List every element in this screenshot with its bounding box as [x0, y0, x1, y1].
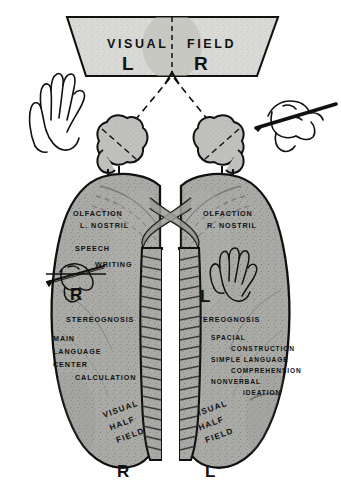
right-function-0: SPACIAL [211, 334, 246, 341]
visual-field-panel [67, 12, 278, 80]
left-vhf-letter: R [117, 462, 129, 481]
left-hand-letter: R [70, 285, 82, 304]
right-olfaction-line1: OLFACTION [203, 209, 253, 218]
visual-field-right-letter: R [194, 53, 208, 74]
left-olfaction-line2: L. NOSTRIL [80, 221, 129, 230]
callosal-column-right [179, 248, 201, 460]
right-vhf-letter: L [205, 462, 215, 481]
left-speech-label: SPEECH [75, 244, 110, 253]
left-function-1: LANGUAGE [53, 347, 101, 356]
right-function-5: IDEATION [243, 389, 281, 396]
right-function-2: SIMPLE LANGUAGE [211, 356, 289, 363]
right-function-4: NONVERBAL [211, 378, 261, 385]
left-olfaction-line1: OLFACTION [73, 209, 123, 218]
left-function-3: CALCULATION [75, 373, 136, 382]
visual-field-word-right: FIELD [187, 37, 236, 51]
right-stereognosis-label: STEREOGNOSIS [192, 315, 260, 324]
left-function-0: MAIN [53, 334, 75, 343]
visual-field-word-left: VISUAL [107, 37, 168, 51]
right-function-1: CONSTRUCTION [231, 345, 295, 352]
callosal-column-left [140, 248, 162, 460]
split-brain-diagram: VISUAL FIELD L R [0, 0, 341, 499]
figure-canvas: VISUAL FIELD L R [0, 0, 341, 499]
midline-gap [162, 250, 179, 465]
right-function-3: COMPREHENSION [231, 367, 302, 374]
right-olfaction-line2: R. NOSTRIL [207, 221, 257, 230]
left-stereognosis-label: STEREOGNOSIS [66, 315, 134, 324]
visual-field-left-letter: L [122, 53, 134, 74]
left-function-2: CENTER [53, 360, 88, 369]
